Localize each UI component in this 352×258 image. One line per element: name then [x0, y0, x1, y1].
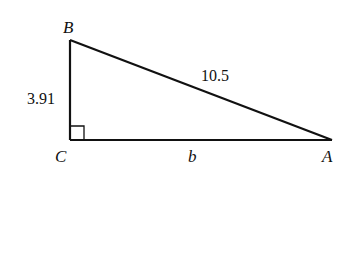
- side-label-bc: 3.91: [27, 90, 55, 107]
- triangle-diagram: B C A 3.91 10.5 b: [0, 0, 352, 258]
- vertex-label-b: B: [63, 18, 74, 37]
- right-angle-marker-icon: [70, 126, 84, 140]
- side-label-ab: 10.5: [201, 67, 229, 84]
- vertex-label-c: C: [55, 147, 67, 166]
- side-label-ca: b: [188, 147, 197, 166]
- vertex-label-a: A: [321, 147, 333, 166]
- side-ab: [70, 40, 332, 140]
